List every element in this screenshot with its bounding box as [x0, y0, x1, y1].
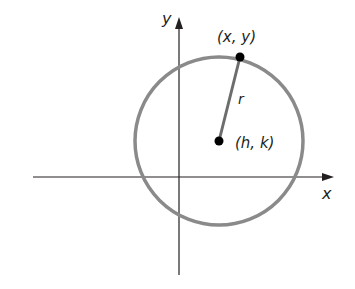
center-label: (h, k): [235, 134, 274, 152]
y-axis-label: y: [161, 9, 172, 28]
radius-label: r: [238, 91, 245, 107]
x-axis-arrow-icon: [322, 173, 334, 181]
center-point: [215, 137, 224, 146]
y-axis: [175, 17, 183, 275]
circle-point: [236, 53, 245, 62]
point-label: (x, y): [217, 28, 256, 46]
x-axis: [33, 173, 334, 181]
circle-diagram: y x (x, y) (h, k) r: [0, 0, 355, 289]
x-axis-label: x: [321, 184, 332, 203]
y-axis-arrow-icon: [175, 17, 183, 29]
radius-line: [219, 57, 240, 141]
